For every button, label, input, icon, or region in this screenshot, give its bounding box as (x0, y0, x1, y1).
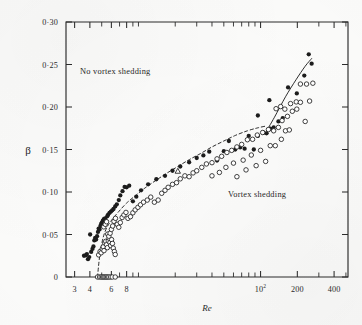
data-point-open (110, 241, 115, 246)
data-point-open (304, 82, 309, 87)
x-tick-label: 102 (255, 283, 267, 294)
data-point-filled (307, 52, 311, 56)
data-point-open (287, 128, 292, 133)
x-tick-label: 400 (328, 285, 341, 294)
data-point-filled (309, 62, 313, 66)
data-point-open (245, 137, 250, 142)
data-point-open (200, 165, 205, 170)
data-point-open (210, 160, 215, 165)
data-point-filled (302, 73, 306, 77)
data-point-open (104, 220, 109, 225)
data-point-filled (91, 244, 95, 248)
data-point-open (217, 170, 222, 175)
data-point-open (235, 145, 240, 150)
data-point-open (239, 142, 244, 147)
data-point-filled (127, 183, 131, 187)
data-point-open (298, 100, 303, 105)
data-point-open (279, 137, 284, 142)
data-point-open (194, 169, 199, 174)
data-point-triangle (175, 168, 180, 173)
data-point-open (311, 81, 316, 86)
data-point-filled (295, 91, 299, 95)
y-tick-label: 0·25 (42, 61, 58, 70)
y-tick-label: 0·05 (42, 231, 58, 240)
figure-chart: 00·050·100·150·200·250·303468102200400 R… (0, 0, 362, 325)
data-point-open (288, 101, 293, 106)
data-point-filled (267, 98, 271, 102)
y-tick-label: 0 (54, 273, 58, 282)
annotation-vortex-shedding: Vortex shedding (228, 190, 287, 199)
data-point-open (274, 106, 279, 111)
x-tick-label: 6 (109, 285, 113, 294)
data-point-filled (139, 188, 143, 192)
data-point-open (231, 161, 236, 166)
data-point-filled (242, 147, 246, 151)
data-point-filled (170, 169, 174, 173)
x-axis-title: Re (201, 303, 212, 313)
data-point-filled (134, 195, 138, 199)
data-point-open (204, 162, 209, 167)
data-point-filled (187, 160, 191, 164)
data-point-open (298, 82, 303, 87)
data-point-open (166, 185, 171, 190)
data-point-filled (95, 234, 99, 238)
x-tick-label: 4 (88, 285, 92, 294)
x-tick-label: 200 (291, 285, 304, 294)
x-tick-label: 3 (72, 285, 76, 294)
data-point-filled (178, 164, 182, 168)
data-point-open (156, 198, 161, 203)
data-point-filled (87, 255, 91, 259)
data-point-open (268, 143, 273, 148)
data-point-open (113, 252, 118, 257)
data-point-open (260, 130, 265, 135)
data-point-filled (117, 198, 121, 202)
data-point-filled (163, 174, 167, 178)
data-point-open (117, 225, 122, 230)
data-point-filled (131, 199, 135, 203)
y-axis-title: β (25, 144, 31, 156)
data-point-open (290, 109, 295, 114)
data-point-open (229, 148, 234, 153)
data-point-open (178, 177, 183, 182)
data-point-filled (256, 113, 260, 117)
data-point-open (210, 174, 215, 179)
annotation-no-vortex-shedding: No vortex shedding (80, 67, 151, 76)
scatter-plot-svg: 00·050·100·150·200·250·303468102200400 R… (0, 0, 362, 325)
data-point-filled (88, 232, 92, 236)
data-point-open (113, 216, 118, 221)
data-point-open (285, 114, 290, 119)
data-point-open (266, 127, 271, 132)
data-point-open (224, 165, 229, 170)
y-tick-label: 0·20 (42, 103, 58, 112)
data-point-open (187, 174, 192, 179)
data-point-open (271, 129, 276, 134)
data-point-filled (195, 156, 199, 160)
data-point-open (215, 157, 220, 162)
data-point-open (255, 133, 260, 138)
data-point-open (273, 143, 278, 148)
data-point-open (113, 275, 118, 280)
y-tick-label: 0·15 (42, 146, 58, 155)
data-point-open (280, 118, 285, 123)
x-tick-label: 8 (124, 285, 128, 294)
y-tick-label: 0·30 (42, 18, 58, 27)
data-point-filled (146, 182, 150, 186)
data-points (82, 52, 315, 279)
data-point-open (124, 210, 129, 215)
data-point-open (254, 163, 259, 168)
data-point-open (241, 158, 246, 163)
data-point-open (110, 224, 115, 229)
data-point-open (283, 107, 288, 112)
data-point-filled (207, 149, 211, 153)
y-tick-label: 0·10 (42, 188, 58, 197)
data-point-open (258, 148, 263, 153)
data-point-filled (120, 189, 124, 193)
data-point-open (174, 180, 179, 185)
data-point-open (148, 195, 153, 200)
data-point-open (276, 125, 281, 129)
data-point-filled (227, 139, 231, 143)
data-point-open (278, 104, 283, 109)
data-point-open (219, 154, 224, 159)
data-point-open (183, 174, 188, 179)
data-point-open (263, 159, 268, 164)
